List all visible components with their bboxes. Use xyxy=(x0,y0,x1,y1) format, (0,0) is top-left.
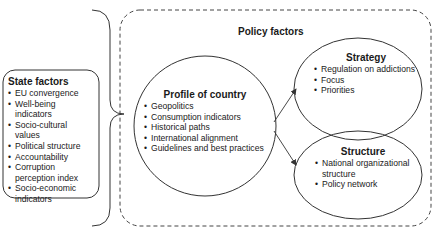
list-item-continuation: indicators xyxy=(8,109,80,120)
strategy-list: Regulation on addictions Focus Prioritie… xyxy=(314,64,418,96)
list-item: Historical paths xyxy=(144,122,266,133)
list-item: Corruption xyxy=(8,162,80,173)
state-factors-panel: State factors EU convergence Well-being … xyxy=(8,76,80,205)
strategy-title: Strategy xyxy=(314,52,418,64)
profile-list: Geopolitics Consumption indicators Histo… xyxy=(144,101,266,154)
structure-title: Structure xyxy=(315,146,411,158)
list-item: Political structure xyxy=(8,141,80,152)
profile-title: Profile of country xyxy=(144,89,266,101)
list-item: Policy network xyxy=(315,179,411,190)
list-item: Regulation on addictions xyxy=(314,64,418,75)
list-item: Priorities xyxy=(314,85,418,96)
list-item: Guidelines and best practices xyxy=(144,143,266,154)
profile-panel: Profile of country Geopolitics Consumpti… xyxy=(144,89,266,154)
list-item: Socio-economic xyxy=(8,183,80,194)
list-item-continuation: structure xyxy=(315,169,411,180)
list-item-continuation: indicators xyxy=(8,194,80,205)
arrow-to-structure xyxy=(274,131,296,165)
structure-panel: Structure National organizational struct… xyxy=(315,146,411,190)
list-item: Consumption indicators xyxy=(144,112,266,123)
list-item: Accountability xyxy=(8,152,80,163)
list-item-continuation: perception index xyxy=(8,173,80,184)
list-item: National organizational xyxy=(315,158,411,169)
state-factors-title: State factors xyxy=(8,76,80,88)
list-item: EU convergence xyxy=(8,88,80,99)
policy-factors-title: Policy factors xyxy=(238,26,304,38)
state-factors-list: EU convergence Well-being indicators Soc… xyxy=(8,88,80,205)
list-item: Socio-cultural xyxy=(8,120,80,131)
list-item: Geopolitics xyxy=(144,101,266,112)
structure-list: National organizational structure Policy… xyxy=(315,158,411,190)
list-item: Focus xyxy=(314,75,418,86)
list-item: Well-being xyxy=(8,99,80,110)
arrow-to-strategy xyxy=(274,89,296,122)
strategy-panel: Strategy Regulation on addictions Focus … xyxy=(314,52,418,96)
list-item: International alignment xyxy=(144,133,266,144)
list-item-continuation: values xyxy=(8,130,80,141)
